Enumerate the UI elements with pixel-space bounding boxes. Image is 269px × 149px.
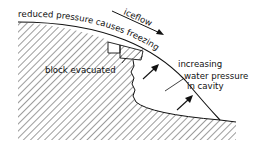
cavity-label-line1: increasing [178, 59, 222, 69]
cavity-label-line3: in cavity [187, 81, 224, 91]
arrow-up-right-icon [143, 64, 159, 79]
glacier-cavity-diagram: reduced pressure causes freezing iceflow… [0, 0, 269, 149]
cavity-label-line2: water pressure [184, 71, 248, 81]
arrow-up-right-icon [177, 95, 193, 110]
block-evacuated-label: block evacuated [45, 65, 116, 75]
cavity-leader-line [165, 79, 183, 91]
